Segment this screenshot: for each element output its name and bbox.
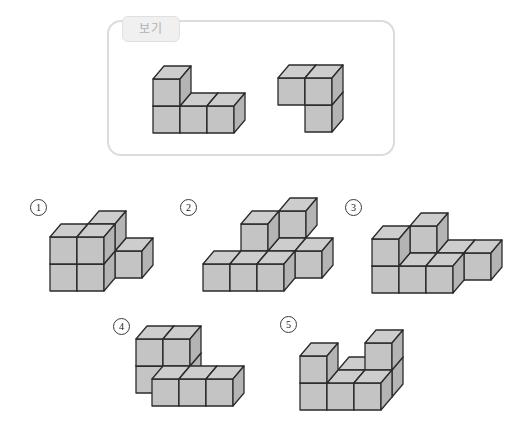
option-number-2: 2 xyxy=(180,199,197,216)
option-figure-3 xyxy=(372,213,502,293)
option-figure-5 xyxy=(300,330,403,410)
option-number-3: 3 xyxy=(345,199,362,216)
option-number-5: 5 xyxy=(280,316,297,333)
example-shape-left xyxy=(153,66,245,133)
option-number-1: 1 xyxy=(30,199,47,216)
cube-figures-canvas xyxy=(0,0,510,444)
option-number-4: 4 xyxy=(113,318,130,335)
option-figure-1 xyxy=(50,211,153,291)
example-shape-right xyxy=(278,65,343,132)
option-figure-2 xyxy=(203,198,333,291)
worksheet-page: 보기 1 2 3 4 5 xyxy=(0,0,510,444)
option-figure-4 xyxy=(136,326,244,406)
